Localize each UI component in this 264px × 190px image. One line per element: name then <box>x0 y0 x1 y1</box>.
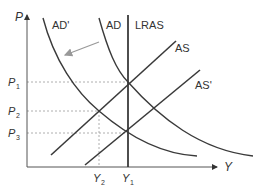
p2-label: P 2 <box>8 105 20 119</box>
shift-arrow-icon <box>65 42 99 55</box>
as-prime-label: AS' <box>195 79 212 91</box>
svg-text:2: 2 <box>101 179 105 186</box>
p3-label: P 3 <box>8 127 20 141</box>
svg-text:P: P <box>8 105 16 117</box>
x-axis-label: Y <box>224 160 233 174</box>
y2-label: Y 2 <box>93 172 105 186</box>
ad-as-diagram: P Y AD' AD LRAS AS AS' P 1 P 2 P 3 Y 2 Y… <box>0 0 264 190</box>
guide-lines <box>27 82 128 167</box>
svg-text:P: P <box>8 76 16 88</box>
p1-label: P 1 <box>8 76 20 90</box>
ad-label: AD <box>106 19 121 31</box>
as-label: AS <box>175 42 190 54</box>
svg-text:3: 3 <box>16 134 20 141</box>
y1-label: Y 1 <box>122 172 134 186</box>
svg-text:2: 2 <box>16 112 20 119</box>
svg-text:1: 1 <box>16 83 20 90</box>
as-curve <box>51 41 176 155</box>
svg-text:Y: Y <box>122 172 130 184</box>
svg-text:Y: Y <box>93 172 101 184</box>
lras-label: LRAS <box>135 19 164 31</box>
ad-prime-label: AD' <box>52 19 69 31</box>
svg-text:P: P <box>8 127 16 139</box>
svg-text:1: 1 <box>130 179 134 186</box>
as-prime-curve <box>85 70 200 165</box>
y-axis-label: P <box>15 10 23 24</box>
